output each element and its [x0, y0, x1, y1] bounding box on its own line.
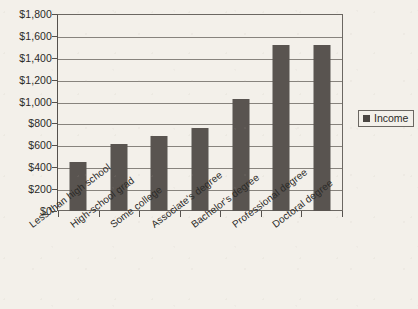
x-axis-tick: [139, 211, 140, 217]
x-axis-tick: [342, 211, 343, 217]
y-axis-tick-label: $1,000: [0, 97, 52, 107]
y-axis-tick: [52, 145, 57, 146]
y-axis-tick-label: $600: [0, 140, 52, 150]
x-axis-tick: [180, 211, 181, 217]
legend: Income: [358, 110, 414, 127]
y-axis-tick: [52, 189, 57, 190]
bar-chart: $0$200$400$600$800$1,000$1,200$1,400$1,6…: [0, 0, 418, 309]
x-axis-labels: Less than high schoolHigh-school gradSom…: [0, 0, 418, 98]
x-axis-tick: [220, 211, 221, 217]
x-axis-tick: [99, 211, 100, 217]
y-axis-tick-label: $400: [0, 162, 52, 172]
legend-label-income: Income: [374, 113, 408, 124]
x-axis-tick: [261, 211, 262, 217]
x-axis-tick: [301, 211, 302, 217]
y-axis-tick-label: $800: [0, 118, 52, 128]
x-axis-tick: [58, 211, 59, 217]
y-axis-tick-label: $200: [0, 184, 52, 194]
y-axis-tick: [52, 123, 57, 124]
y-axis-tick: [52, 167, 57, 168]
legend-swatch-income: [363, 115, 370, 122]
y-axis-tick: [52, 102, 57, 103]
